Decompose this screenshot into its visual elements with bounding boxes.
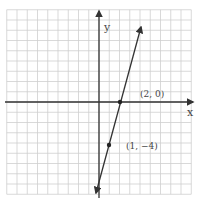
point-1-neg4-label: (1, −4): [126, 141, 158, 151]
plotted-line: [96, 27, 141, 193]
x-axis-label: x: [187, 106, 194, 119]
point-2-0: [118, 100, 122, 104]
coordinate-plane: y x (2, 0) (1, −4): [0, 0, 199, 201]
y-axis-label: y: [103, 21, 111, 34]
point-1-neg4: [107, 143, 111, 147]
point-2-0-label: (2, 0): [140, 89, 164, 99]
